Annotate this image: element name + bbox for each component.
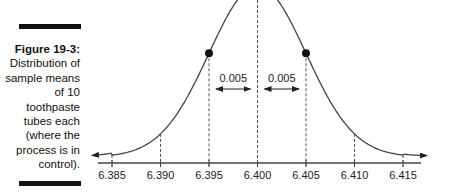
normal-distribution-diagram: 0.0050.005 6.3856.3906.3956.4006.4056.41… <box>0 0 450 193</box>
x-tick-label: 6.390 <box>147 169 175 181</box>
x-tick-label: 6.400 <box>244 169 272 181</box>
normal-curve <box>92 0 427 156</box>
dashed-reference-lines <box>112 0 403 167</box>
x-axis-tick-labels: 6.3856.3906.3956.4006.4056.4106.415 <box>98 169 417 181</box>
x-tick-label: 6.410 <box>341 169 369 181</box>
std-error-label: 0.005 <box>268 72 296 84</box>
x-tick-label: 6.385 <box>98 169 126 181</box>
marked-point <box>205 49 213 57</box>
x-tick-label: 6.415 <box>389 169 417 181</box>
marked-point <box>302 49 310 57</box>
x-tick-label: 6.405 <box>292 169 320 181</box>
std-error-label: 0.005 <box>219 72 247 84</box>
x-tick-label: 6.395 <box>195 169 223 181</box>
